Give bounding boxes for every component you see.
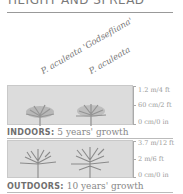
outdoors-scale-top: 3.7 m/12 ft — [138, 139, 174, 147]
outdoors-divider — [7, 192, 173, 193]
indoors-caption: INDOORS: 5 years' growth — [7, 127, 129, 137]
indoors-scale-bar — [133, 86, 134, 125]
outdoor-tree-icon-godsefliana — [17, 148, 59, 178]
indoor-tree-icon-godsefliana — [22, 104, 58, 126]
outdoors-scale-bar — [133, 141, 134, 178]
outdoor-tree-icon-aculeata — [69, 146, 111, 178]
indoor-tree-icon-aculeata — [73, 103, 109, 126]
indoors-caption-bold: INDOORS: — [7, 128, 54, 137]
outdoors-caption-text: 10 years' growth — [64, 181, 144, 191]
page-title: HEIGHT AND SPREAD — [8, 0, 145, 7]
outdoors-caption-bold: OUTDOORS: — [7, 182, 64, 191]
outdoors-scale-mid: 2 m/6 ft — [138, 155, 164, 163]
title-divider — [7, 12, 173, 13]
indoors-caption-text: 5 years' growth — [54, 127, 128, 137]
outdoors-scale-bottom: 0 cm/0 in — [138, 171, 169, 179]
plant-label-aculeata: P. aculeata — [87, 44, 132, 76]
indoors-scale-bottom: 0 cm/0 in — [138, 118, 169, 126]
indoors-scale-mid: 60 cm/2 ft — [138, 101, 172, 109]
outdoors-caption: OUTDOORS: 10 years' growth — [7, 181, 144, 191]
indoors-scale-top: 1.2 m/4 ft — [138, 86, 170, 94]
